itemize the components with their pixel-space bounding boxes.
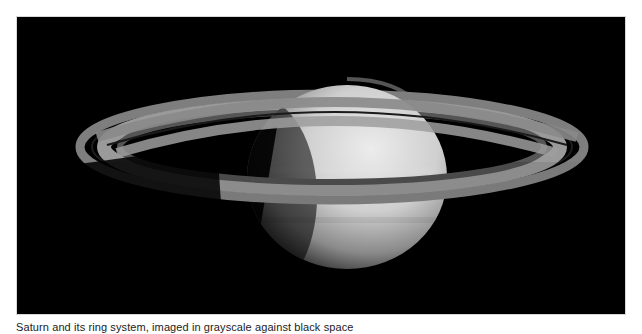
figure-caption: Saturn and its ring system, imaged in gr… xyxy=(16,320,628,334)
saturn-image xyxy=(16,16,626,315)
saturn-illustration xyxy=(17,17,626,315)
